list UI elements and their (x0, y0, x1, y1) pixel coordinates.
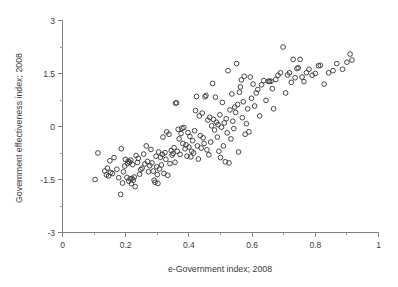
data-point-marker (159, 163, 164, 168)
data-point-marker (146, 169, 151, 174)
data-point-marker (233, 110, 238, 115)
data-point-marker (229, 137, 234, 142)
data-point-marker (238, 85, 243, 90)
data-point-marker (298, 57, 303, 62)
data-point-marker (141, 152, 146, 157)
data-point-marker (144, 144, 149, 149)
data-point-marker (212, 128, 217, 133)
data-point-marker (219, 125, 224, 130)
axes-group (63, 21, 379, 233)
data-point-marker (155, 172, 160, 177)
data-point-marker (281, 45, 286, 50)
data-point-marker (302, 79, 307, 84)
data-point-marker (163, 157, 168, 162)
data-point-marker (242, 74, 247, 79)
tick-labels-group: 00.20.40.60.81-3-1.501.53 (40, 16, 381, 250)
data-point-marker (93, 177, 98, 182)
data-point-marker (228, 108, 233, 113)
data-point-marker (249, 96, 254, 101)
x-tick-label: 0 (60, 240, 65, 250)
data-point-marker (168, 161, 173, 166)
y-tick-label: 1.5 (43, 69, 55, 79)
x-tick-label: 0.4 (183, 240, 195, 250)
data-point-marker (209, 123, 214, 128)
data-point-marker (192, 128, 197, 133)
data-point-marker (177, 137, 182, 142)
data-point-marker (226, 68, 231, 73)
data-point-marker (350, 58, 355, 63)
data-point-marker (119, 146, 124, 151)
data-point-marker (120, 181, 125, 186)
data-point-marker (190, 138, 195, 143)
data-point-marker (340, 67, 345, 72)
y-tick-label: -3 (47, 228, 55, 238)
data-point-marker (178, 152, 183, 157)
y-tick-label: 3 (50, 16, 55, 26)
data-point-marker (225, 131, 230, 136)
data-point-marker (217, 149, 222, 154)
data-point-marker (283, 91, 288, 96)
data-point-marker (161, 135, 166, 140)
data-point-marker (234, 61, 239, 66)
scatter-plot-svg: 00.20.40.60.81-3-1.501.53 e-Government i… (0, 0, 398, 287)
data-point-marker (188, 134, 193, 139)
x-tick-label: 0.6 (246, 240, 258, 250)
data-point-marker (257, 114, 262, 119)
data-point-marker (322, 82, 327, 87)
data-point-marker (121, 169, 126, 174)
data-point-marker (331, 68, 336, 73)
data-point-marker (202, 141, 207, 146)
data-point-marker (194, 94, 199, 99)
data-point-marker (156, 181, 161, 186)
data-point-marker (252, 104, 257, 109)
data-point-marker (199, 146, 204, 151)
data-points-group (93, 45, 355, 197)
data-point-marker (173, 160, 178, 165)
y-tick-label: -1.5 (40, 175, 55, 185)
data-point-marker (345, 60, 350, 65)
data-point-marker (244, 121, 249, 126)
data-point-marker (271, 106, 276, 111)
data-point-marker (293, 75, 298, 80)
data-point-marker (118, 192, 123, 197)
x-tick-label: 1 (376, 240, 381, 250)
data-point-marker (211, 117, 216, 122)
data-point-marker (251, 82, 256, 87)
scatter-chart-figure: 00.20.40.60.81-3-1.501.53 e-Government i… (0, 0, 398, 287)
data-point-marker (221, 144, 226, 149)
data-point-marker (245, 106, 250, 111)
data-point-marker (151, 169, 156, 174)
data-point-marker (115, 167, 120, 172)
data-point-marker (240, 115, 245, 120)
data-point-marker (264, 98, 269, 103)
data-point-marker (196, 157, 201, 162)
data-point-marker (218, 112, 223, 117)
data-point-marker (237, 90, 242, 95)
data-point-marker (179, 131, 184, 136)
data-point-marker (307, 67, 312, 72)
data-point-marker (130, 162, 135, 167)
x-tick-label: 0.2 (120, 240, 132, 250)
ticks-group (58, 21, 379, 238)
data-point-marker (193, 108, 198, 113)
data-point-marker (289, 80, 294, 85)
data-point-marker (96, 151, 101, 156)
data-point-marker (215, 135, 220, 140)
data-point-marker (116, 175, 121, 180)
data-point-marker (218, 155, 223, 160)
x-tick-label: 0.8 (309, 240, 321, 250)
data-point-marker (231, 126, 236, 131)
data-point-marker (270, 86, 275, 91)
data-point-marker (208, 140, 213, 145)
x-axis-title: e-Government index; 2008 (168, 264, 272, 274)
data-point-marker (236, 150, 241, 155)
data-point-marker (230, 119, 235, 124)
data-point-marker (204, 93, 209, 98)
data-point-marker (300, 75, 305, 80)
data-point-marker (137, 172, 142, 177)
data-point-marker (326, 70, 331, 75)
data-point-marker (205, 147, 210, 152)
data-point-marker (197, 114, 202, 119)
data-point-marker (149, 147, 154, 152)
data-point-marker (348, 52, 353, 57)
